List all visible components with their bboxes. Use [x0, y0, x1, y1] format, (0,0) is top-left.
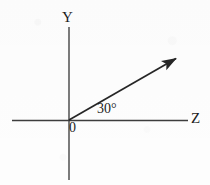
origin-label: 0: [69, 121, 76, 135]
angle-diagram-figure: Y Z 0 30°: [0, 0, 210, 185]
y-axis-label: Y: [62, 10, 73, 25]
diagram-canvas: [0, 0, 210, 185]
z-axis-label: Z: [191, 111, 200, 126]
direction-ray: [69, 59, 176, 121]
angle-label: 30°: [97, 102, 117, 116]
